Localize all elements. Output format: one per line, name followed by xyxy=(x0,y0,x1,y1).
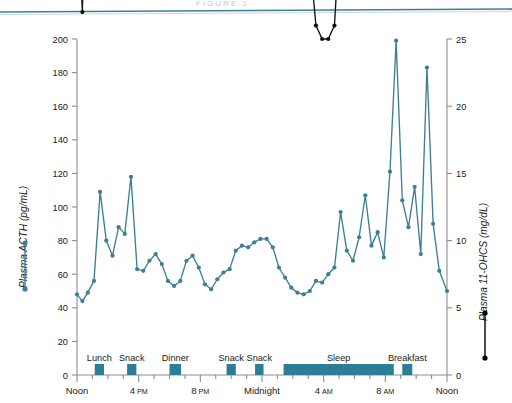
svg-text:20: 20 xyxy=(58,337,68,347)
svg-text:100: 100 xyxy=(52,203,68,213)
event-bar xyxy=(95,364,104,375)
event-label: Breakfast xyxy=(388,353,427,363)
svg-text:8PM: 8PM xyxy=(191,385,209,396)
data-point xyxy=(92,279,96,283)
data-point xyxy=(166,279,170,283)
data-point xyxy=(240,244,244,248)
data-point xyxy=(86,291,90,295)
data-point xyxy=(332,265,336,269)
svg-text:80: 80 xyxy=(58,236,68,246)
data-point xyxy=(295,291,299,295)
data-point xyxy=(326,272,330,276)
svg-text:160: 160 xyxy=(52,102,68,112)
data-point xyxy=(419,252,423,256)
data-point xyxy=(117,225,121,229)
data-point xyxy=(141,269,145,273)
data-point xyxy=(209,287,213,291)
acth-ohcs-circadian-chart: 020406080100120140160180200 0510152025 N… xyxy=(0,0,512,403)
legend-marker-ohcs xyxy=(482,310,487,315)
faint-header-text: FIGURE 1 xyxy=(196,0,249,8)
data-point xyxy=(376,230,380,234)
data-point xyxy=(314,23,318,27)
event-bar xyxy=(170,364,182,375)
data-series-group xyxy=(75,0,449,303)
svg-text:0: 0 xyxy=(63,371,68,381)
data-point xyxy=(80,299,84,303)
data-point xyxy=(345,249,349,253)
data-point xyxy=(258,237,262,241)
data-point xyxy=(129,175,133,179)
svg-text:25: 25 xyxy=(456,35,466,45)
data-point xyxy=(382,255,386,259)
data-point xyxy=(363,193,367,197)
data-point xyxy=(147,259,151,263)
event-label: Snack xyxy=(218,353,244,363)
svg-text:140: 140 xyxy=(52,135,68,145)
data-point xyxy=(215,277,219,281)
data-point xyxy=(351,259,355,263)
data-point xyxy=(406,225,410,229)
data-point xyxy=(277,265,281,269)
data-point xyxy=(234,249,238,253)
data-point xyxy=(326,37,330,41)
data-point xyxy=(394,39,398,43)
svg-text:10: 10 xyxy=(456,236,466,246)
x-axis-ticks: Noon4PM8PMMidnight4AM8AMNoon xyxy=(66,375,459,396)
data-point xyxy=(197,265,201,269)
svg-text:4PM: 4PM xyxy=(130,385,148,396)
left-axis-title: Plasma ACTH (pg/mL) xyxy=(18,186,29,288)
data-point xyxy=(369,244,373,248)
data-point xyxy=(75,292,79,296)
data-point xyxy=(135,267,139,271)
svg-text:180: 180 xyxy=(52,68,68,78)
data-point xyxy=(332,23,336,27)
event-label: Sleep xyxy=(327,353,351,363)
data-point xyxy=(178,279,182,283)
data-point xyxy=(160,262,164,266)
event-bar xyxy=(402,364,412,375)
event-label: Dinner xyxy=(162,353,189,363)
data-point xyxy=(308,289,312,293)
svg-text:Noon: Noon xyxy=(436,385,459,396)
svg-text:120: 120 xyxy=(52,169,68,179)
event-bar xyxy=(255,364,263,375)
data-point xyxy=(289,286,293,290)
axis-legend-group: Plasma ACTH (pg/mL)Plasma 11-OHCS (mg/dL… xyxy=(18,186,489,361)
data-point xyxy=(413,185,417,189)
data-point xyxy=(445,289,449,293)
data-point xyxy=(203,282,207,286)
data-point xyxy=(388,170,392,174)
data-point xyxy=(154,252,158,256)
event-bar xyxy=(284,364,394,375)
data-point xyxy=(191,254,195,258)
data-point xyxy=(400,198,404,202)
data-point xyxy=(172,284,176,288)
svg-text:4AM: 4AM xyxy=(315,385,333,396)
data-point xyxy=(314,279,318,283)
right-axis-title: Plasma 11-OHCS (mg/dL) xyxy=(478,203,489,321)
data-point xyxy=(184,259,188,263)
header-rule xyxy=(0,9,512,15)
data-point xyxy=(320,37,324,41)
svg-text:15: 15 xyxy=(456,169,466,179)
data-point xyxy=(228,267,232,271)
data-point xyxy=(80,10,84,14)
data-point xyxy=(221,270,225,274)
data-point xyxy=(110,254,114,258)
data-point xyxy=(104,239,108,243)
event-label: Snack xyxy=(119,353,145,363)
data-point xyxy=(252,240,256,244)
svg-text:0: 0 xyxy=(456,371,461,381)
event-bars-group: LunchSnackDinnerSnackSnackSleepBreakfast xyxy=(87,353,427,376)
svg-text:200: 200 xyxy=(52,35,68,45)
data-point xyxy=(320,281,324,285)
event-label: Lunch xyxy=(87,353,112,363)
svg-text:8AM: 8AM xyxy=(376,385,394,396)
svg-text:40: 40 xyxy=(58,303,68,313)
right-axis-ticks: 0510152025 xyxy=(447,35,466,381)
data-point xyxy=(246,245,250,249)
data-point xyxy=(283,275,287,279)
data-point xyxy=(431,222,435,226)
data-point xyxy=(271,245,275,249)
data-point xyxy=(357,235,361,239)
